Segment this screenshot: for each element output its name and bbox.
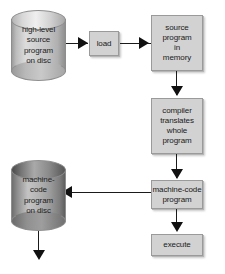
node-execute: execute: [151, 234, 203, 256]
box-label-line-2: program: [162, 33, 191, 42]
node-machine-code-disc-label: machine- code program on disc: [11, 175, 66, 217]
box-label-line-4: memory: [163, 53, 191, 62]
edge-compiler-to-machine-code-arrowhead: [171, 169, 183, 179]
node-execute-label: execute: [152, 240, 202, 250]
node-source-program-in-memory-label: source program in memory: [152, 23, 202, 63]
node-source-program-disc: high-level source program on disc: [11, 10, 66, 81]
node-compiler-translates: compiler translates whole program: [151, 98, 203, 154]
disc-label-line-3: program: [11, 46, 66, 57]
edge-source-disc-to-load-arrowhead: [78, 37, 88, 49]
node-machine-code-disc: machine- code program on disc: [11, 160, 66, 231]
node-machine-code-program: machine-code program: [151, 180, 203, 209]
box-label-line-1: machine-code: [152, 185, 201, 194]
edge-load-to-source-memory-arrowhead: [139, 37, 149, 49]
box-label-line-1: source: [165, 23, 188, 32]
box-label-line-3: in: [174, 43, 180, 52]
box-label-line-3: whole: [167, 126, 187, 135]
box-label-line-2: translates: [160, 116, 194, 125]
node-source-program-in-memory: source program in memory: [151, 15, 203, 71]
box-label-line-4: program: [162, 136, 191, 145]
disc-label-line-4: on disc: [11, 206, 66, 217]
disc-label-line-2: code: [11, 185, 66, 196]
disc-label-line-4: on disc: [11, 56, 66, 67]
compilation-flow-diagram: high-level source program on disc load s…: [0, 0, 225, 274]
node-source-program-disc-label: high-level source program on disc: [11, 25, 66, 67]
edge-machine-code-to-execute-arrowhead: [171, 222, 183, 232]
disc-label-line-1: high-level: [11, 25, 66, 36]
box-label-line-2: program: [162, 195, 191, 204]
node-compiler-translates-label: compiler translates whole program: [152, 106, 202, 146]
edge-machine-code-to-disc-line: [70, 192, 151, 193]
edge-machine-code-disc-output-arrowhead: [33, 250, 45, 260]
box-label-line-1: compiler: [162, 106, 191, 115]
disc-label-line-2: source: [11, 35, 66, 46]
edge-source-memory-to-compiler-arrowhead: [171, 86, 183, 96]
node-machine-code-program-label: machine-code program: [152, 185, 202, 205]
node-load-label: load: [90, 39, 118, 49]
disc-label-line-3: program: [11, 196, 66, 207]
node-load: load: [89, 31, 119, 56]
disc-label-line-1: machine-: [11, 175, 66, 186]
